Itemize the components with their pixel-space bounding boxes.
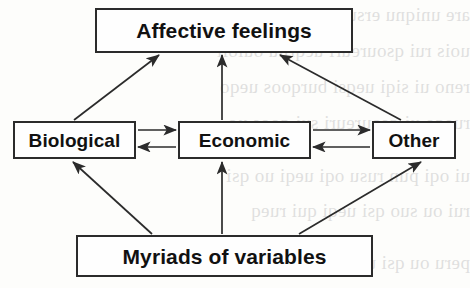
node-biological: Biological (13, 121, 136, 159)
node-affective-feelings: Affective feelings (95, 8, 353, 53)
node-label: Myriads of variables (123, 246, 327, 267)
node-economic: Economic (178, 121, 311, 159)
node-label: Affective feelings (136, 20, 312, 41)
arrow-myriads-to-other (299, 162, 421, 234)
arrow-biological-to-affective (74, 55, 159, 120)
node-label: Economic (199, 131, 291, 150)
diagram-canvas: are uniqnu ersuz azouro are ou uois rui … (0, 0, 470, 288)
node-label: Other (388, 131, 439, 150)
arrow-other-to-affective (280, 55, 401, 120)
node-myriads-of-variables: Myriads of variables (76, 235, 373, 277)
node-other: Other (372, 121, 456, 159)
arrow-myriads-to-biological (73, 162, 152, 234)
node-label: Biological (29, 131, 121, 150)
